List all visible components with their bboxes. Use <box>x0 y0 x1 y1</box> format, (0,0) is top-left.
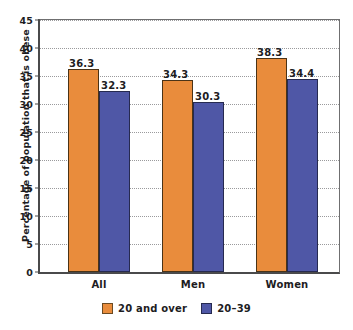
bar-value-label: 34.3 <box>163 69 188 80</box>
legend-label: 20–39 <box>217 303 251 314</box>
bar-value-label: 36.3 <box>69 58 94 69</box>
bar-all-series-0[interactable] <box>68 69 99 272</box>
bar-value-label: 30.3 <box>195 91 220 102</box>
y-axis-title: Percentage of population that is obese <box>20 6 31 266</box>
bar-value-label: 32.3 <box>101 80 126 91</box>
chart-legend: 20 and over20–39 <box>0 303 353 314</box>
bar-all-series-1[interactable] <box>99 91 130 272</box>
legend-item-series-0[interactable]: 20 and over <box>102 303 187 314</box>
bar-group-men: 34.330.3 <box>162 20 224 272</box>
bar-women-series-0[interactable] <box>256 58 287 272</box>
bar-group-all: 36.332.3 <box>68 20 130 272</box>
legend-item-series-1[interactable]: 20–39 <box>201 303 251 314</box>
y-axis-tick-label: 0 <box>26 267 33 278</box>
bar-group-women: 38.334.4 <box>256 20 318 272</box>
chart-figure: 051015202530354045 Percentage of populat… <box>0 0 353 330</box>
plot-area: 36.332.334.330.338.334.4 <box>40 20 339 272</box>
legend-label: 20 and over <box>118 303 187 314</box>
legend-swatch-icon <box>201 303 212 314</box>
x-axis-label-men: Men <box>162 279 224 290</box>
x-axis-label-women: Women <box>256 279 318 290</box>
bar-value-label: 38.3 <box>257 47 282 58</box>
x-axis-label-all: All <box>68 279 130 290</box>
bar-women-series-1[interactable] <box>287 79 318 272</box>
bar-men-series-0[interactable] <box>162 80 193 272</box>
legend-swatch-icon <box>102 303 113 314</box>
bar-value-label: 34.4 <box>289 68 314 79</box>
bar-men-series-1[interactable] <box>193 102 224 272</box>
